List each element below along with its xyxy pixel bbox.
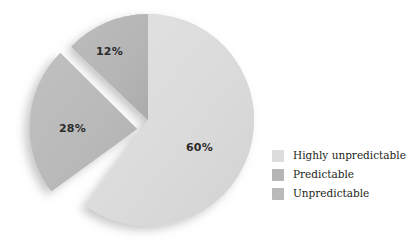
legend-label-predictable: Predictable (293, 169, 354, 181)
pie-svg (0, 0, 270, 245)
legend-label-highly-unpredictable: Highly unpredictable (293, 150, 406, 162)
legend-item-predictable[interactable]: Predictable (272, 165, 417, 184)
slice-label-unpredictable: 28% (59, 123, 86, 134)
pie-plot-area: 60% 28% 12% (0, 0, 270, 245)
legend-swatch-icon-predictable (272, 169, 284, 181)
legend-item-highly-unpredictable[interactable]: Highly unpredictable (272, 146, 417, 165)
slice-label-highly-unpredictable: 60% (186, 142, 213, 153)
legend-swatch-icon-unpredictable (272, 188, 284, 200)
pie-chart-figure: 60% 28% 12% Highly unpredictable Predict… (0, 0, 419, 245)
legend-label-unpredictable: Unpredictable (293, 188, 369, 200)
chart-legend: Highly unpredictable Predictable Unpredi… (272, 146, 417, 203)
legend-swatch-icon-highly-unpredictable (272, 150, 284, 162)
slice-label-predictable: 12% (96, 46, 123, 57)
legend-item-unpredictable[interactable]: Unpredictable (272, 184, 417, 203)
